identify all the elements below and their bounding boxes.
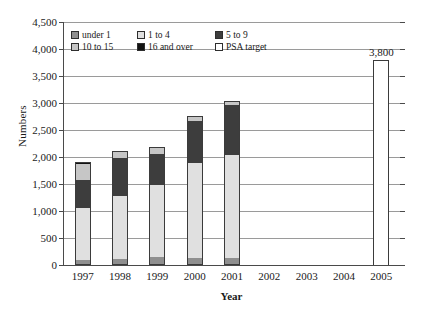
legend-label-psa-target: PSA target [226,41,267,53]
bar-segment-1-to-4 [112,196,128,259]
bar-segment-1-to-4 [224,155,240,258]
legend-label-under-1: under 1 [82,29,111,41]
x-tick-label-2005: 2005 [370,270,392,282]
bar-group-2005: 3,8002005 [363,22,400,265]
bar-1999[interactable] [149,147,165,265]
y-tick-label: 3,500 [32,70,57,82]
y-tick-mark-right [400,157,405,158]
y-tick-mark [59,265,64,266]
legend-swatch-1-to-4 [137,31,145,39]
y-tick-mark-right [400,184,405,185]
y-tick-label: 3,000 [32,97,57,109]
y-tick-label: 500 [41,232,58,244]
bar-group-2001: 2001 [213,22,250,265]
bar-1998[interactable] [112,151,128,265]
x-tick-label-2003: 2003 [296,270,318,282]
x-tick-label-1998: 1998 [109,270,131,282]
bar-group-2003: 2003 [288,22,325,265]
y-tick-label: 4,000 [32,43,57,55]
legend-swatch-under-1 [71,31,79,39]
bar-segment-under-1 [187,258,203,265]
bar-segment-under-1 [149,257,165,265]
y-tick-label: 1,000 [32,205,57,217]
bar-2001[interactable] [224,101,240,265]
bar-2005[interactable]: 3,800 [373,60,389,265]
y-tick-label: 2,500 [32,124,57,136]
bar-group-1999: 1999 [139,22,176,265]
y-tick-mark-right [400,265,405,266]
bar-segment-5-to-9 [224,105,240,155]
bar-segment-under-1 [112,259,128,265]
bar-group-2000: 2000 [176,22,213,265]
legend-item-5-to-9[interactable]: 5 to 9 [215,29,267,41]
y-tick-mark-right [400,22,405,23]
legend-item-16-and-over[interactable]: 16 and over [137,41,211,53]
legend-label-16-and-over: 16 and over [148,41,193,53]
bar-1997[interactable] [75,162,91,265]
x-tick-label-2002: 2002 [258,270,280,282]
y-tick-label: 0 [52,259,58,271]
x-tick-label-2000: 2000 [184,270,206,282]
y-tick-mark-right [400,211,405,212]
x-tick-label-1999: 1999 [146,270,168,282]
legend-swatch-16-and-over [137,43,145,51]
bar-group-1997: 1997 [64,22,101,265]
y-tick-label: 2,000 [32,151,57,163]
legend-label-10-to-15: 10 to 15 [82,41,113,53]
y-tick-mark-right [400,103,405,104]
legend-swatch-5-to-9 [215,31,223,39]
bar-value-label-2005: 3,800 [369,46,394,58]
bar-segment-psa-target [373,60,389,265]
legend-item-1-to-4[interactable]: 1 to 4 [137,29,211,41]
bar-segment-under-1 [224,258,240,265]
y-tick-mark-right [400,76,405,77]
bar-segment-1-to-4 [149,185,165,257]
x-axis-title: Year [63,290,400,302]
bar-segment-5-to-9 [187,121,203,164]
y-axis-title: Numbers [16,81,28,171]
legend-item-under-1[interactable]: under 1 [71,29,133,41]
bar-segment-1-to-4 [75,208,91,260]
plot-area: 05001,0001,5002,0002,5003,0003,5004,0004… [63,22,400,266]
chart-container: Numbers 05001,0001,5002,0002,5003,0003,5… [0,0,421,320]
y-tick-mark-right [400,49,405,50]
bar-segment-10-to-15 [75,164,91,180]
chart-legend: under 1 1 to 4 5 to 9 10 to 15 16 and ov… [71,29,267,53]
x-tick-label-2001: 2001 [221,270,243,282]
bar-segment-1-to-4 [187,163,203,258]
bar-group-2004: 2004 [325,22,362,265]
y-tick-mark-right [400,238,405,239]
y-tick-mark-right [400,130,405,131]
legend-label-5-to-9: 5 to 9 [226,29,248,41]
y-tick-label: 1,500 [32,178,57,190]
bar-2000[interactable] [187,116,203,265]
x-tick-label-1997: 1997 [72,270,94,282]
bar-segment-5-to-9 [75,180,91,208]
legend-swatch-10-to-15 [71,43,79,51]
bar-segment-5-to-9 [149,154,165,185]
bar-group-2002: 2002 [251,22,288,265]
x-tick-label-2004: 2004 [333,270,355,282]
y-tick-label: 4,500 [32,16,57,28]
legend-item-psa-target[interactable]: PSA target [215,41,267,53]
bar-segment-5-to-9 [112,158,128,197]
bar-segment-under-1 [75,260,91,265]
legend-item-10-to-15[interactable]: 10 to 15 [71,41,133,53]
legend-label-1-to-4: 1 to 4 [148,29,170,41]
legend-swatch-psa-target [215,43,223,51]
bar-group-1998: 1998 [101,22,138,265]
